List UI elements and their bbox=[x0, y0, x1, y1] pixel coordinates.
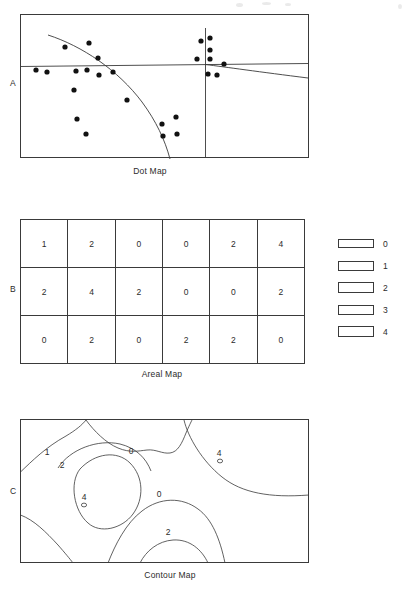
dot-map-dot bbox=[83, 131, 88, 136]
legend-swatch-1 bbox=[338, 261, 374, 271]
areal-map-caption: Areal Map bbox=[122, 369, 202, 379]
dot-map-dot bbox=[207, 35, 212, 40]
dot-map-dot bbox=[73, 68, 78, 73]
legend-label: 4 bbox=[383, 327, 388, 337]
dot-map-dot bbox=[160, 133, 165, 138]
dot-map-dot bbox=[62, 44, 67, 49]
dot-map-dot bbox=[86, 40, 91, 45]
areal-cell: 1 bbox=[21, 220, 68, 268]
areal-map-table: 1 2 0 0 2 4 2 4 2 0 0 2 0 2 0 2 2 0 bbox=[20, 219, 305, 364]
contour-label: 0 bbox=[157, 489, 162, 499]
areal-cell: 0 bbox=[257, 316, 304, 364]
scan-speckle bbox=[262, 2, 271, 5]
legend-label: 0 bbox=[383, 239, 388, 249]
areal-cell: 4 bbox=[257, 220, 304, 268]
dot-map-dot bbox=[207, 56, 212, 61]
legend-label: 2 bbox=[383, 283, 388, 293]
areal-map-panel: 1 2 0 0 2 4 2 4 2 0 0 2 0 2 0 2 2 0 bbox=[20, 219, 305, 354]
areal-cell: 0 bbox=[162, 268, 209, 316]
areal-cell: 2 bbox=[162, 316, 209, 364]
dot-map-dot bbox=[221, 61, 226, 66]
areal-cell: 0 bbox=[210, 268, 257, 316]
table-row: 0 2 0 2 2 0 bbox=[21, 316, 305, 364]
areal-cell: 0 bbox=[162, 220, 209, 268]
dot-map-dot bbox=[110, 69, 115, 74]
table-row: 2 4 2 0 0 2 bbox=[21, 268, 305, 316]
contour-map-caption: Contour Map bbox=[125, 570, 215, 580]
legend-item: 4 bbox=[338, 324, 404, 339]
areal-cell: 0 bbox=[115, 316, 162, 364]
legend-swatch-2 bbox=[338, 282, 374, 293]
scan-speckle bbox=[236, 3, 243, 7]
dot-map-dot bbox=[95, 55, 100, 60]
scan-speckle bbox=[285, 3, 291, 6]
legend-swatch-4 bbox=[338, 326, 374, 337]
dot-map-panel bbox=[20, 14, 310, 159]
contour-label: 4 bbox=[217, 448, 222, 458]
dot-map-dot bbox=[173, 114, 178, 119]
contour-label: 0 bbox=[129, 446, 134, 456]
areal-cell: 2 bbox=[210, 316, 257, 364]
legend-label: 3 bbox=[383, 305, 388, 315]
panel-b-label: B bbox=[10, 284, 16, 294]
dot-map-dot bbox=[71, 87, 76, 92]
legend-label: 1 bbox=[383, 261, 388, 271]
areal-cell: 0 bbox=[115, 220, 162, 268]
dot-map-dot bbox=[205, 71, 210, 76]
dot-map-dot bbox=[96, 72, 101, 77]
legend: 0 1 2 3 4 bbox=[338, 236, 404, 346]
dot-map-dot bbox=[44, 69, 49, 74]
panel-a-label: A bbox=[10, 78, 16, 88]
panel-c-label: C bbox=[10, 486, 16, 496]
contour-label: 2 bbox=[60, 460, 65, 470]
dot-map-dot bbox=[33, 67, 38, 72]
legend-item: 1 bbox=[338, 258, 404, 273]
areal-cell: 2 bbox=[210, 220, 257, 268]
dot-map-dot bbox=[214, 72, 219, 77]
dot-map-dot bbox=[194, 56, 199, 61]
contour-label: 1 bbox=[45, 447, 50, 457]
dot-map-dot bbox=[207, 47, 212, 52]
areal-cell: 4 bbox=[68, 268, 115, 316]
dot-map-caption: Dot Map bbox=[110, 166, 190, 176]
areal-cell: 2 bbox=[257, 268, 304, 316]
dot-map-dot bbox=[159, 121, 164, 126]
areal-cell: 2 bbox=[21, 268, 68, 316]
legend-item: 3 bbox=[338, 302, 404, 317]
dot-map-dot bbox=[84, 67, 89, 72]
dot-map-dot bbox=[198, 38, 203, 43]
areal-cell: 2 bbox=[115, 268, 162, 316]
contour-label: 2 bbox=[166, 527, 171, 537]
table-row: 1 2 0 0 2 4 bbox=[21, 220, 305, 268]
legend-item: 2 bbox=[338, 280, 404, 295]
legend-swatch-0 bbox=[338, 239, 374, 248]
scan-speckle bbox=[398, 4, 402, 9]
dot-map-dot bbox=[174, 131, 179, 136]
legend-item: 0 bbox=[338, 236, 404, 251]
contour-map-frame bbox=[21, 420, 309, 563]
areal-cell: 2 bbox=[68, 220, 115, 268]
dot-map-dot bbox=[124, 97, 129, 102]
contour-map-panel: 1 2 0 4 4 0 2 bbox=[20, 419, 310, 564]
contour-label: 4 bbox=[82, 492, 87, 502]
areal-cell: 0 bbox=[21, 316, 68, 364]
areal-cell: 2 bbox=[68, 316, 115, 364]
dot-map-dot bbox=[74, 116, 79, 121]
legend-swatch-3 bbox=[338, 305, 374, 315]
